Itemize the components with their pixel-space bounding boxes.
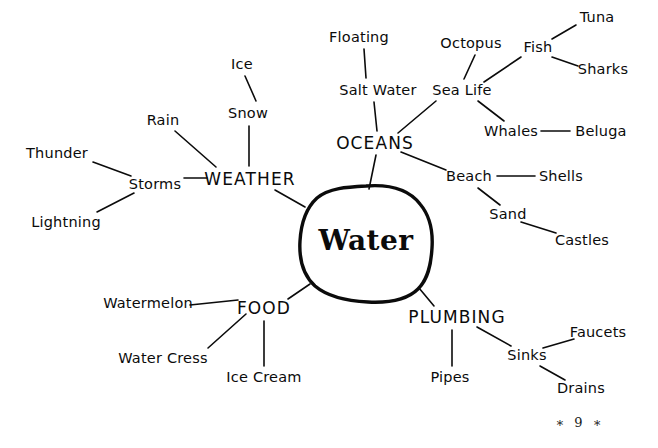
edge-sand-to-castles xyxy=(521,222,556,233)
node-plumbing[interactable]: PLUMBING xyxy=(408,309,505,326)
edge-beach-to-sand xyxy=(478,188,500,205)
edge-weather-to-center xyxy=(275,190,305,207)
node-icecream[interactable]: Ice Cream xyxy=(226,370,301,385)
node-octopus[interactable]: Octopus xyxy=(440,36,501,51)
node-fish[interactable]: Fish xyxy=(524,40,553,55)
node-pipes[interactable]: Pipes xyxy=(430,370,469,385)
node-sand[interactable]: Sand xyxy=(489,207,526,222)
node-beluga[interactable]: Beluga xyxy=(575,124,626,139)
node-tuna[interactable]: Tuna xyxy=(580,10,615,25)
edge-thunder-to-storms xyxy=(93,162,131,176)
node-shells[interactable]: Shells xyxy=(539,169,583,184)
edge-oceans-to-beach xyxy=(401,152,446,170)
edge-fish-to-tuna xyxy=(552,25,576,39)
edge-sealife-to-whales xyxy=(478,101,504,121)
node-castles[interactable]: Castles xyxy=(555,233,609,248)
edge-rain-to-weather xyxy=(175,131,216,167)
node-thunder[interactable]: Thunder xyxy=(26,146,88,161)
node-saltwater[interactable]: Salt Water xyxy=(339,83,416,98)
node-faucets[interactable]: Faucets xyxy=(570,325,627,340)
edge-sinks-to-faucets xyxy=(543,339,574,348)
page-number: ∗ 9 ∗ xyxy=(555,415,604,430)
node-storms[interactable]: Storms xyxy=(129,177,181,192)
edge-floating-to-saltwater xyxy=(364,49,366,78)
edge-food-to-center xyxy=(288,284,310,299)
edge-oceans-to-center xyxy=(369,155,376,189)
node-food[interactable]: FOOD xyxy=(237,300,291,317)
node-sealife[interactable]: Sea Life xyxy=(432,83,491,98)
edge-sealife-to-fish xyxy=(484,57,521,82)
edge-watercress-to-food xyxy=(208,314,246,348)
edge-sinks-to-drains xyxy=(540,366,565,380)
edge-watermelon-to-food xyxy=(190,300,238,305)
edge-ice-to-snow xyxy=(245,76,256,101)
node-sharks[interactable]: Sharks xyxy=(578,62,628,77)
node-floating[interactable]: Floating xyxy=(329,30,389,45)
node-beach[interactable]: Beach xyxy=(446,169,492,184)
node-whales[interactable]: Whales xyxy=(484,124,538,139)
mindmap-page: ThunderLightningStormsRainIceSnowWEATHER… xyxy=(0,0,658,448)
node-rain[interactable]: Rain xyxy=(147,113,180,128)
center-node-water[interactable]: Water xyxy=(318,227,413,255)
node-snow[interactable]: Snow xyxy=(228,106,268,121)
edge-saltwater-to-oceans xyxy=(374,102,377,131)
node-watermelon[interactable]: Watermelon xyxy=(103,296,193,311)
node-sinks[interactable]: Sinks xyxy=(507,348,546,363)
node-ice[interactable]: Ice xyxy=(231,57,253,72)
edge-plumbing-to-sinks xyxy=(477,327,511,346)
node-drains[interactable]: Drains xyxy=(557,381,605,396)
node-weather[interactable]: WEATHER xyxy=(204,171,295,188)
node-lightning[interactable]: Lightning xyxy=(31,215,101,230)
node-watercress[interactable]: Water Cress xyxy=(118,351,207,366)
edge-sealife-to-octopus xyxy=(464,55,475,79)
edge-plumbing-to-center xyxy=(419,288,434,306)
edge-fish-to-sharks xyxy=(552,57,578,66)
edge-lightning-to-storms xyxy=(97,193,134,212)
edge-oceans-to-sealife xyxy=(398,101,436,133)
node-oceans[interactable]: OCEANS xyxy=(336,135,414,152)
